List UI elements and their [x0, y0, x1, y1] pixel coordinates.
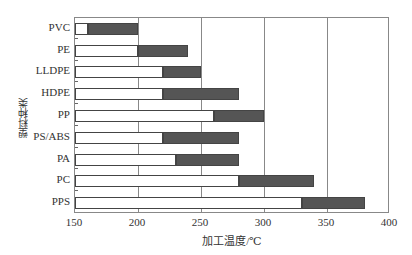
bar-base — [75, 66, 163, 78]
y-tick — [75, 190, 78, 191]
bar-base — [75, 23, 88, 35]
bar-range — [239, 175, 315, 187]
bar-range — [214, 110, 264, 122]
bar-range — [176, 154, 239, 166]
y-tick — [75, 125, 78, 126]
bar-range — [302, 197, 365, 209]
bar-base — [75, 175, 239, 187]
gridline — [327, 18, 328, 212]
y-tick — [75, 81, 78, 82]
bar-base — [75, 45, 138, 57]
bar-base — [75, 88, 163, 100]
bar-range — [88, 23, 138, 35]
y-category-label: PPS — [52, 195, 70, 207]
y-category-label: PS/ABS — [33, 130, 70, 142]
x-tick-label: 350 — [318, 216, 335, 228]
chart: PVCPELLDPEHDPEPPPS/ABSPAPCPPS 1502002503… — [0, 0, 412, 255]
x-tick-label: 200 — [129, 216, 146, 228]
y-tick — [75, 60, 78, 61]
y-category-label: PP — [58, 108, 70, 120]
y-category-label: LLDPE — [36, 64, 70, 76]
bar-base — [75, 154, 176, 166]
y-category-label: PE — [57, 43, 70, 55]
y-category-label: HDPE — [41, 86, 70, 98]
y-category-label: PC — [57, 173, 70, 185]
y-category-label: PA — [57, 152, 70, 164]
x-tick-label: 400 — [381, 216, 398, 228]
bar-base — [75, 197, 302, 209]
bar-range — [163, 88, 239, 100]
y-category-label: PVC — [49, 21, 70, 33]
bar-range — [163, 66, 201, 78]
y-axis-title: 塑料种类 — [16, 98, 31, 138]
x-tick-label: 250 — [192, 216, 209, 228]
y-tick — [75, 38, 78, 39]
x-tick-label: 300 — [255, 216, 272, 228]
y-tick — [75, 147, 78, 148]
y-tick — [75, 103, 78, 104]
bar-base — [75, 132, 163, 144]
x-tick-label: 150 — [66, 216, 83, 228]
bar-range — [138, 45, 188, 57]
bar-range — [163, 132, 239, 144]
y-tick — [75, 168, 78, 169]
bar-base — [75, 110, 214, 122]
plot-area — [74, 17, 389, 213]
x-axis-title: 加工温度/℃ — [202, 232, 261, 248]
